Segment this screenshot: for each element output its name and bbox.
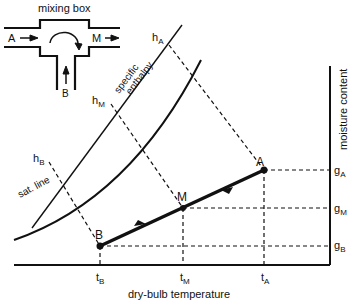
y-axis-title-group: moisture content (337, 69, 349, 150)
mixing-box-schematic (4, 20, 120, 90)
ga-label: gA (334, 164, 346, 179)
outlet-m-label: M (92, 32, 101, 44)
point-a-label: A (256, 155, 264, 169)
projection-lines (49, 45, 330, 265)
psychrometric-mixing-diagram: mixing box A M B A M B specific enthalpy… (0, 0, 353, 304)
arrow-b-head-icon (63, 66, 69, 74)
mixing-box-arrows (20, 32, 119, 84)
inlet-a-label: A (8, 32, 16, 44)
gm-label: gM (334, 202, 347, 217)
mixing-box-top-wall (4, 20, 120, 28)
arrow-m-head-icon (111, 35, 119, 41)
ta-label: tA (261, 271, 270, 286)
tm-label: tM (180, 271, 190, 286)
mixing-box-title: mixing box (38, 2, 91, 14)
ha-label: hA (152, 31, 164, 46)
hm-projection (111, 104, 183, 208)
mixing-box-bottom-right-wall (75, 47, 120, 90)
inlet-b-label: B (62, 88, 69, 99)
ha-projection (169, 45, 264, 170)
sat-line-label-group: sat. line (16, 174, 52, 200)
x-axis-title: dry-bulb temperature (128, 288, 230, 300)
point-b-label: B (95, 228, 103, 242)
point-m-marker (180, 205, 186, 211)
sat-line-label: sat. line (16, 174, 52, 200)
mixing-box-bottom-left-wall (4, 47, 57, 90)
gb-label: gB (334, 239, 345, 254)
enthalpy-label-group: specific enthalpy (112, 54, 155, 102)
point-b-marker (97, 243, 104, 250)
tb-label: tB (96, 271, 104, 286)
hb-label: hB (33, 152, 44, 167)
point-m-label: M (177, 190, 187, 204)
y-axis-title: moisture content (337, 69, 349, 150)
mixing-swirl-head-icon (75, 43, 82, 50)
hb-projection (49, 162, 100, 246)
hm-label: hM (92, 94, 105, 109)
arrow-a-head-icon (30, 35, 38, 41)
mixing-swirl-icon (50, 32, 78, 46)
